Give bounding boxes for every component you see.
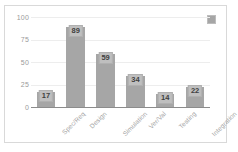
y-axis-tick-label: 25 bbox=[7, 81, 29, 88]
bar-value-label: 34 bbox=[128, 74, 142, 86]
x-axis-tick-label: Testing bbox=[177, 110, 197, 130]
bar[interactable] bbox=[66, 27, 84, 107]
bar-slot: 59 bbox=[91, 17, 121, 107]
bar-slot: 22 bbox=[180, 17, 210, 107]
y-axis-tick-label: 0 bbox=[7, 104, 29, 111]
x-axis-tick-label: Simulation bbox=[121, 110, 148, 137]
y-axis-tick-label: 50 bbox=[7, 59, 29, 66]
chart-container: 0255075100 178959341422 Spec/ReqDesignSi… bbox=[4, 5, 227, 143]
y-axis-tick-label: 100 bbox=[7, 14, 29, 21]
bar-slot: 17 bbox=[31, 17, 61, 107]
y-axis: 0255075100 bbox=[5, 17, 29, 107]
bar-slot: 89 bbox=[61, 17, 91, 107]
x-axis-tick-label: Spec/Req bbox=[61, 110, 87, 136]
bar-value-label: 89 bbox=[69, 25, 83, 37]
bar-value-label: 22 bbox=[188, 85, 202, 97]
x-axis-tick-label: Design bbox=[88, 110, 108, 130]
bar-value-label: 14 bbox=[158, 92, 172, 104]
bar-series: 178959341422 bbox=[31, 17, 210, 107]
x-axis: Spec/ReqDesignSimulationVer/ValTestingIn… bbox=[31, 108, 210, 144]
bar-slot: 34 bbox=[121, 17, 151, 107]
x-axis-tick-label: Ver/Val bbox=[148, 110, 168, 130]
y-axis-tick-label: 75 bbox=[7, 36, 29, 43]
x-axis-tick-label: Integration bbox=[210, 110, 233, 137]
bar-value-label: 59 bbox=[98, 52, 112, 64]
bar-slot: 14 bbox=[150, 17, 180, 107]
bar-value-label: 17 bbox=[39, 90, 53, 102]
